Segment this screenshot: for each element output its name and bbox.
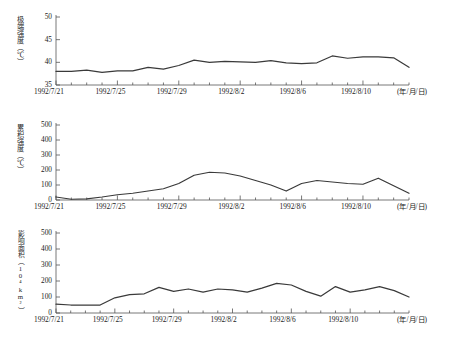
x-axis-unit-label: (年/月/日) (397, 316, 427, 323)
data-line (56, 283, 409, 305)
x-tick-label: 1992/8/6 (269, 316, 295, 323)
x-tick-label: 1992/7/29 (152, 316, 182, 323)
chart-panel-affected-area: 影响面积（10⁴km²） 0100200300400500 1992/7/211… (0, 222, 449, 338)
x-tick-label: 1992/7/21 (34, 316, 64, 323)
x-axis-unit-label: (年/月/日) (397, 203, 427, 210)
x-tick-label: 1992/8/6 (280, 88, 306, 95)
data-line (56, 172, 409, 199)
x-axis-labels-2: 1992/7/211992/7/251992/7/291992/8/21992/… (0, 316, 449, 328)
data-line (56, 56, 409, 72)
x-tick-label: 1992/8/6 (280, 203, 306, 210)
x-tick-label: 1992/8/2 (211, 316, 237, 323)
x-tick-label: 1992/8/10 (341, 88, 371, 95)
x-tick-label: 1992/7/21 (34, 88, 64, 95)
x-tick-label: 1992/8/10 (341, 203, 371, 210)
chart-panel-extreme-intensity: 极端强度（℃） 35404550 1992/7/211992/7/251992/… (0, 0, 449, 115)
x-axis-labels-0: 1992/7/211992/7/251992/7/291992/8/21992/… (0, 88, 449, 100)
x-tick-label: 1992/8/2 (218, 88, 244, 95)
x-tick-label: 1992/7/25 (95, 203, 125, 210)
x-axis-unit-label: (年/月/日) (397, 88, 427, 95)
x-tick-label: 1992/7/25 (93, 316, 123, 323)
x-tick-label: 1992/7/29 (157, 203, 187, 210)
triple-line-chart-figure: 极端强度（℃） 35404550 1992/7/211992/7/251992/… (0, 0, 449, 338)
chart-panel-cumulative-intensity: 累积强度（℃） 0100200300400500 1992/7/211992/7… (0, 112, 449, 224)
x-tick-label: 1992/8/10 (328, 316, 358, 323)
x-tick-label: 1992/8/2 (218, 203, 244, 210)
x-tick-label: 1992/7/29 (157, 88, 187, 95)
x-axis-labels-1: 1992/7/211992/7/251992/7/291992/8/21992/… (0, 203, 449, 215)
x-tick-label: 1992/7/21 (34, 203, 64, 210)
x-tick-label: 1992/7/25 (95, 88, 125, 95)
